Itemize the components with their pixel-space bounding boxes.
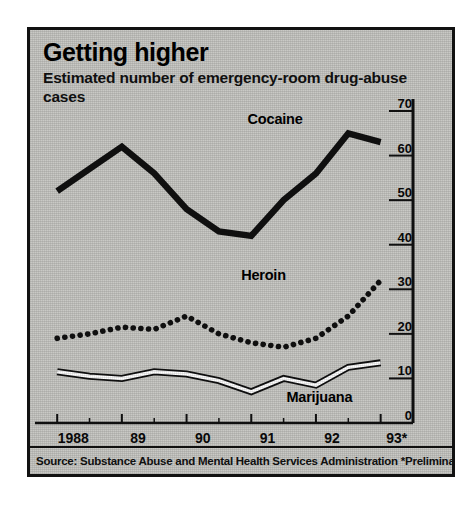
x-axis-label-93*: 93* [367, 431, 427, 446]
series-label-cocaine: Cocaine [248, 111, 303, 127]
y-axis-label-50: 50 [384, 186, 412, 199]
y-axis-label-10: 10 [384, 364, 412, 377]
y-axis-label-40: 40 [384, 231, 412, 244]
x-axis-label-91: 91 [237, 431, 297, 446]
x-axis-label-90: 90 [173, 431, 233, 446]
x-axis-label-92: 92 [302, 431, 362, 446]
y-axis-label-0: 0 [384, 409, 412, 422]
y-axis-label-60: 60 [384, 142, 412, 155]
x-axis-label-89: 89 [108, 431, 168, 446]
series-line-cocaine [57, 133, 380, 236]
y-axis-label-20: 20 [384, 320, 412, 333]
series-label-heroin: Heroin [241, 267, 286, 283]
series-label-marijuana: Marijuana [286, 389, 352, 405]
series-line-heroin [57, 280, 380, 347]
source-note: Source: Substance Abuse and Mental Healt… [36, 455, 455, 467]
x-axis-label-1988: 1988 [43, 431, 103, 446]
y-axis-label-30: 30 [384, 275, 412, 288]
chart-figure: Getting higher Estimated number of emerg… [0, 0, 472, 507]
source-bar: Source: Substance Abuse and Mental Healt… [30, 446, 452, 474]
y-axis-label-70: 70 [384, 97, 412, 110]
chart-panel: Getting higher Estimated number of emerg… [27, 27, 455, 477]
